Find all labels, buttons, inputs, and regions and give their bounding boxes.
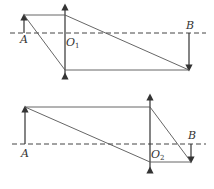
ray-focal-1: [24, 15, 189, 70]
label-o-2-sub: 2: [160, 154, 164, 162]
label-o-2: O: [151, 148, 160, 161]
label-b-1: B: [185, 19, 194, 32]
optics-diagram: A B O 1 A B O 2: [0, 0, 214, 189]
label-a-1: A: [19, 33, 28, 46]
label-a-2: A: [20, 147, 29, 160]
diagram-1: A B O 1: [10, 7, 206, 76]
diagram-2: A B O 2: [12, 97, 206, 170]
label-o-1: O: [66, 36, 75, 49]
ray-focal-2: [25, 107, 191, 162]
ray-parallel-1: [24, 15, 189, 70]
ray-parallel-2: [25, 107, 191, 162]
label-b-2: B: [187, 129, 196, 142]
label-o-1-sub: 1: [75, 42, 79, 50]
